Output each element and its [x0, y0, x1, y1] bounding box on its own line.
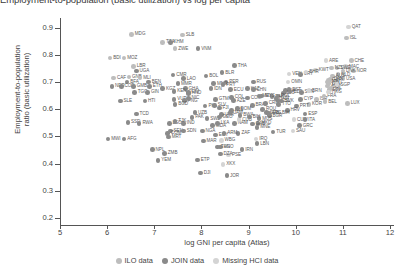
data-point[interactable]	[247, 115, 252, 120]
data-point[interactable]	[345, 101, 350, 106]
data-point[interactable]	[218, 152, 223, 157]
data-point[interactable]	[173, 46, 178, 51]
data-point[interactable]	[286, 80, 291, 85]
data-point[interactable]	[134, 112, 139, 117]
data-point[interactable]	[231, 98, 236, 103]
data-point[interactable]	[168, 40, 173, 45]
data-point[interactable]	[129, 32, 134, 37]
data-point[interactable]	[209, 86, 214, 91]
data-point[interactable]	[287, 72, 292, 77]
data-point[interactable]	[111, 76, 116, 81]
data-point[interactable]	[346, 25, 351, 30]
data-point[interactable]	[195, 158, 200, 163]
data-point[interactable]	[220, 70, 225, 75]
data-point[interactable]	[221, 162, 226, 167]
data-point[interactable]	[176, 81, 181, 86]
data-point[interactable]	[196, 46, 201, 51]
data-point[interactable]	[238, 113, 243, 118]
data-point[interactable]	[323, 99, 328, 104]
data-point[interactable]	[221, 82, 226, 87]
data-point[interactable]	[228, 110, 233, 115]
data-point[interactable]	[298, 97, 303, 102]
data-point[interactable]	[147, 84, 152, 89]
data-point[interactable]	[143, 99, 148, 104]
data-point[interactable]	[217, 115, 222, 120]
data-point[interactable]	[137, 121, 142, 126]
data-point[interactable]	[292, 117, 297, 122]
data-point[interactable]	[212, 103, 217, 108]
data-point[interactable]	[232, 63, 237, 68]
data-point[interactable]	[186, 96, 191, 101]
legend-item[interactable]: Missing HCI data	[213, 256, 278, 265]
data-point[interactable]	[245, 86, 250, 91]
data-point[interactable]	[201, 139, 206, 144]
data-point[interactable]	[263, 101, 268, 106]
data-point[interactable]	[307, 88, 312, 93]
data-point[interactable]	[160, 40, 165, 45]
data-point[interactable]	[150, 147, 155, 152]
data-point[interactable]	[180, 33, 185, 38]
data-point[interactable]	[122, 56, 127, 61]
data-point[interactable]	[251, 80, 256, 85]
data-point[interactable]	[251, 87, 256, 92]
data-point[interactable]	[171, 73, 176, 78]
data-point[interactable]	[162, 151, 167, 156]
data-point[interactable]	[203, 104, 208, 109]
data-point[interactable]	[110, 84, 115, 89]
data-point[interactable]	[172, 89, 177, 94]
data-point[interactable]	[200, 129, 205, 134]
data-point[interactable]	[349, 58, 354, 63]
data-point[interactable]	[213, 97, 218, 102]
data-point[interactable]	[228, 87, 233, 92]
data-point[interactable]	[181, 129, 186, 134]
data-point[interactable]	[108, 56, 113, 61]
data-point[interactable]	[240, 147, 245, 152]
data-point[interactable]	[122, 137, 127, 142]
data-point[interactable]	[299, 90, 304, 95]
data-point[interactable]	[119, 84, 124, 89]
data-point[interactable]	[326, 90, 331, 95]
data-point[interactable]	[190, 115, 195, 120]
data-point[interactable]	[213, 133, 218, 138]
data-point[interactable]	[134, 69, 139, 74]
data-point[interactable]	[172, 97, 177, 102]
data-point[interactable]	[222, 131, 227, 136]
data-point[interactable]	[329, 66, 334, 71]
data-point[interactable]	[271, 130, 276, 135]
data-point[interactable]	[173, 119, 178, 124]
data-point[interactable]	[126, 120, 131, 125]
data-point[interactable]	[219, 138, 224, 143]
data-point[interactable]	[160, 86, 165, 91]
data-point[interactable]	[145, 90, 150, 95]
data-point[interactable]	[167, 121, 172, 126]
legend-item[interactable]: JOIN data	[162, 256, 204, 265]
data-point[interactable]	[181, 76, 186, 81]
data-point[interactable]	[132, 90, 137, 95]
data-point[interactable]	[232, 121, 237, 126]
data-point[interactable]	[225, 173, 230, 178]
data-point[interactable]	[291, 129, 296, 134]
data-point[interactable]	[166, 135, 171, 140]
data-point[interactable]	[198, 171, 203, 176]
data-point[interactable]	[156, 158, 161, 163]
data-point[interactable]	[274, 96, 279, 101]
data-point[interactable]	[173, 102, 178, 107]
data-point[interactable]	[298, 72, 303, 77]
data-point[interactable]	[215, 145, 220, 150]
data-point[interactable]	[324, 58, 329, 63]
data-point[interactable]	[344, 36, 349, 41]
data-point[interactable]	[131, 84, 136, 89]
data-point[interactable]	[186, 90, 191, 95]
data-point[interactable]	[118, 99, 123, 104]
data-point[interactable]	[245, 96, 250, 101]
data-point[interactable]	[106, 137, 111, 142]
data-point[interactable]	[250, 122, 255, 127]
data-point[interactable]	[215, 121, 220, 126]
data-point[interactable]	[260, 107, 265, 112]
data-point[interactable]	[204, 74, 209, 79]
data-point[interactable]	[255, 141, 260, 146]
data-point[interactable]	[205, 116, 210, 121]
data-point-label: BIH	[253, 114, 261, 119]
legend-item[interactable]: ILO data	[116, 256, 153, 265]
data-point[interactable]	[193, 110, 198, 115]
